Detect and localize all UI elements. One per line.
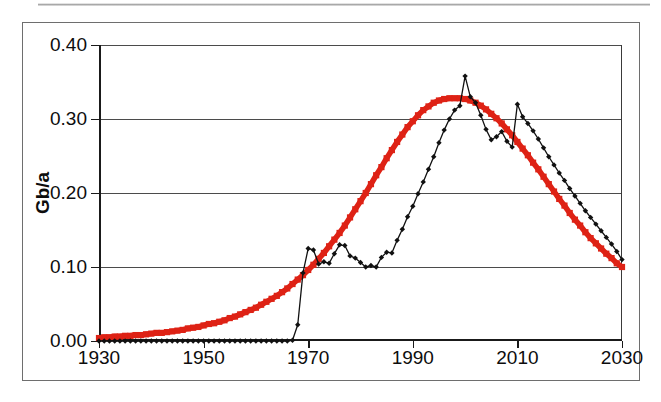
x-axis-tick-labels: 193019501970199020102030 <box>99 345 622 375</box>
scan-artifact-line <box>38 3 650 6</box>
chart-page: Gb/a 0.000.100.200.300.40 19301950197019… <box>0 0 661 402</box>
y-tick-0.40 <box>91 45 99 46</box>
y-tick-label-0.40: 0.40 <box>50 34 87 56</box>
y-tick-0.30 <box>91 119 99 120</box>
y-tick-0.10 <box>91 267 99 268</box>
x-tick-label-2010: 2010 <box>496 347 538 369</box>
series-model-curve <box>96 95 625 341</box>
x-tick-label-1930: 1930 <box>78 347 120 369</box>
y-tick-label-0.30: 0.30 <box>50 108 87 130</box>
x-tick-label-1970: 1970 <box>287 347 329 369</box>
x-tick-label-1990: 1990 <box>392 347 434 369</box>
y-tick-label-0.10: 0.10 <box>50 256 87 278</box>
data-series-layer <box>99 45 622 341</box>
series-data-curve <box>96 73 624 343</box>
y-tick-label-0.20: 0.20 <box>50 182 87 204</box>
plot-area <box>99 45 622 341</box>
y-tick-0.20 <box>91 193 99 194</box>
x-tick-label-2030: 2030 <box>601 347 643 369</box>
x-tick-label-1950: 1950 <box>182 347 224 369</box>
y-axis-tick-labels: 0.000.100.200.300.40 <box>0 45 99 341</box>
